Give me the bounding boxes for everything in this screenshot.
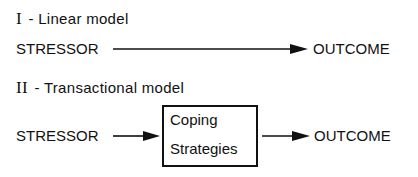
- stressor-to-coping-arrow: [113, 131, 160, 141]
- coping-to-outcome-arrow: [262, 131, 310, 141]
- linear-arrow: [113, 44, 308, 54]
- arrows-layer: [0, 0, 418, 177]
